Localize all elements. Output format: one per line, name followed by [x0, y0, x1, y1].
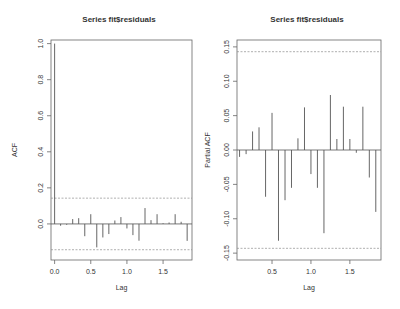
- y-axis-label: ACF: [11, 143, 18, 157]
- y-tick-label: 0.05: [223, 109, 230, 123]
- acf-pacf-figure: Series fit$residuals0.00.51.01.50.00.20.…: [0, 0, 400, 309]
- y-tick-label: 0.10: [223, 74, 230, 88]
- chart-title: Series fit$residuals: [82, 15, 156, 24]
- x-tick-label: 0.5: [267, 268, 277, 275]
- x-tick-label: 1.5: [158, 268, 168, 275]
- y-tick-label: 0.00: [223, 143, 230, 157]
- x-axis-label: Lag: [116, 284, 128, 292]
- y-axis-label: Partial ACF: [204, 132, 211, 167]
- x-axis-label: Lag: [303, 284, 315, 292]
- y-tick-label: -0.10: [223, 211, 230, 227]
- y-tick-label: 0.0: [37, 219, 44, 229]
- x-tick-label: 1.0: [122, 268, 132, 275]
- chart-title: Series fit$residuals: [270, 15, 344, 24]
- y-tick-label: 0.6: [37, 111, 44, 121]
- figure-canvas: Series fit$residuals0.00.51.01.50.00.20.…: [0, 0, 400, 309]
- y-tick-label: -0.05: [223, 176, 230, 192]
- y-tick-label: 0.15: [223, 40, 230, 54]
- plot-frame: [51, 40, 192, 260]
- y-tick-label: -0.15: [223, 245, 230, 261]
- acf-plot: Series fit$residuals0.00.51.01.50.00.20.…: [11, 15, 192, 292]
- pacf-plot: Series fit$residuals0.51.01.5-0.15-0.10-…: [204, 15, 381, 292]
- y-tick-label: 0.8: [37, 75, 44, 85]
- x-tick-label: 0.0: [50, 268, 60, 275]
- y-tick-label: 0.2: [37, 183, 44, 193]
- y-tick-label: 1.0: [37, 39, 44, 49]
- x-tick-label: 1.5: [345, 268, 355, 275]
- x-tick-label: 0.5: [86, 268, 96, 275]
- y-tick-label: 0.4: [37, 147, 44, 157]
- x-tick-label: 1.0: [306, 268, 316, 275]
